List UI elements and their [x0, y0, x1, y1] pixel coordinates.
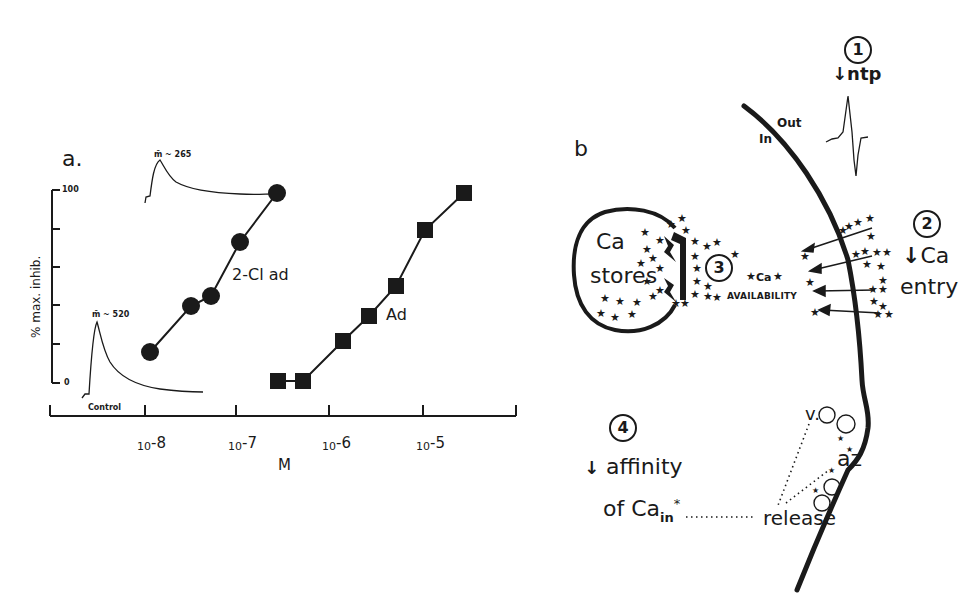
- svg-text:★: ★: [690, 235, 700, 248]
- y-axis-label: % max. inhib.: [30, 256, 42, 338]
- data-point-square: [388, 278, 404, 294]
- step-2-ca: ↓Ca: [902, 245, 949, 267]
- svg-text:★: ★: [648, 290, 658, 303]
- ca-availability-ca: Ca: [756, 272, 772, 283]
- data-point-square: [295, 373, 311, 389]
- x-tick-exp: -6: [336, 434, 351, 452]
- stores-label: stores: [590, 265, 657, 287]
- step-4-badge: 4: [609, 414, 637, 442]
- svg-text:★: ★: [666, 218, 676, 231]
- svg-text:★: ★: [746, 270, 756, 283]
- svg-text:★: ★: [810, 306, 820, 319]
- svg-text:★: ★: [828, 466, 835, 475]
- svg-text:★: ★: [866, 230, 876, 243]
- svg-text:★: ★: [878, 283, 888, 296]
- data-point-circle: [231, 233, 249, 251]
- data-point-square: [417, 222, 433, 238]
- data-point-circle: [268, 184, 286, 202]
- svg-text:★: ★: [655, 234, 665, 247]
- data-point-circle: [182, 297, 200, 315]
- svg-text:★: ★: [865, 212, 875, 225]
- x-axis-label: M: [278, 458, 291, 473]
- svg-text:★: ★: [837, 434, 844, 443]
- step-3-badge: 3: [705, 254, 733, 282]
- step-2-badge: 2: [913, 210, 941, 238]
- affinity-label: affinity: [606, 454, 682, 479]
- ca-in-star: *: [674, 496, 681, 511]
- svg-text:★: ★: [627, 308, 637, 321]
- data-point-square: [335, 333, 351, 349]
- svg-text:★: ★: [812, 486, 819, 495]
- data-point-circle: [141, 343, 159, 361]
- x-tick-exp: -8: [151, 434, 166, 452]
- step-2-entry: entry: [900, 276, 958, 298]
- trace-control-label: m̄ ~ 520: [92, 311, 129, 319]
- stores-ca-label: Ca: [596, 231, 625, 253]
- control-trace: [82, 322, 203, 398]
- x-tick-1e-7: 10-7: [228, 436, 257, 452]
- svg-text:★: ★: [853, 216, 863, 229]
- vesicle-label: v.: [805, 405, 820, 423]
- ca-release-channel: [664, 232, 686, 302]
- svg-text:★: ★: [876, 260, 886, 273]
- ca-availability-label: AVAILABILITY: [727, 292, 797, 301]
- data-point-square: [456, 185, 472, 201]
- data-point-circle: [202, 287, 220, 305]
- svg-text:★: ★: [690, 288, 700, 301]
- svg-text:★: ★: [773, 270, 783, 283]
- step-1-text: ↓ntp: [832, 65, 881, 83]
- x-tick-1e-6: 10-6: [322, 436, 351, 452]
- step-1-badge: 1: [844, 36, 872, 64]
- x-tick-base: 10: [416, 440, 430, 453]
- down-arrow-icon: ↓: [584, 457, 599, 478]
- svg-text:★: ★: [872, 246, 882, 259]
- x-tick-base: 10: [228, 440, 242, 453]
- svg-text:★: ★: [702, 240, 712, 253]
- svg-text:★: ★: [610, 311, 620, 324]
- svg-text:★: ★: [862, 258, 872, 271]
- svg-text:★: ★: [680, 297, 690, 310]
- active-zone-label: az: [837, 448, 862, 470]
- y-tick-0: 0: [64, 379, 70, 387]
- of-ca-label: of Ca: [603, 496, 660, 521]
- nerve-terminal-potential-trace: [826, 96, 868, 176]
- svg-text:★: ★: [712, 236, 722, 249]
- svg-text:★: ★: [884, 308, 894, 321]
- ad-markers: [270, 185, 472, 389]
- x-tick-1e-8: 10-8: [137, 436, 166, 452]
- drug-trace: [145, 160, 276, 203]
- release-label: release: [763, 508, 836, 528]
- svg-text:★: ★: [730, 248, 740, 261]
- data-point-square: [270, 373, 286, 389]
- x-tick-base: 10: [137, 440, 151, 453]
- svg-text:★: ★: [882, 246, 892, 259]
- ca-in-subscript: in: [660, 510, 674, 525]
- membrane-out-label: Out: [777, 117, 801, 129]
- svg-text:★: ★: [640, 226, 650, 239]
- dotted-leaders: [686, 424, 829, 517]
- x-tick-exp: -7: [242, 434, 257, 452]
- down-arrow-icon: ↓: [832, 63, 847, 84]
- svg-text:★: ★: [873, 308, 883, 321]
- step-4-affinity: ↓ affinity: [584, 456, 683, 478]
- svg-text:★: ★: [600, 292, 610, 305]
- svg-text:★: ★: [712, 291, 722, 304]
- series-label-2cl-ad: 2-Cl ad: [232, 267, 289, 283]
- step-4-of-ca-in: of Cain*: [603, 497, 680, 524]
- svg-text:★: ★: [805, 276, 815, 289]
- x-tick-exp: -5: [430, 434, 445, 452]
- x-tick-base: 10: [322, 440, 336, 453]
- svg-text:★: ★: [596, 307, 606, 320]
- ca-label: Ca: [920, 243, 949, 268]
- series-label-ad: Ad: [386, 307, 407, 323]
- panel-b-label: b: [574, 138, 588, 160]
- data-point-square: [361, 308, 377, 324]
- control-label: Control: [88, 404, 121, 412]
- svg-text:★: ★: [615, 295, 625, 308]
- y-tick-100: 100: [62, 186, 79, 194]
- x-tick-1e-5: 10-5: [416, 436, 445, 452]
- svg-text:★: ★: [692, 262, 702, 275]
- ad-series-line: [278, 193, 464, 381]
- trace-top-label: m̄ ~ 265: [154, 151, 191, 159]
- y-axis: [52, 190, 60, 383]
